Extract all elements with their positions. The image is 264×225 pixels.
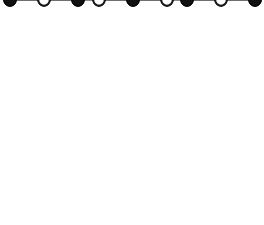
lattice-atom-filled xyxy=(4,0,16,6)
lattice-atoms-group xyxy=(4,0,261,6)
lattice-atom-filled xyxy=(72,0,84,6)
lattice-atom-open xyxy=(161,0,172,6)
lattice-atom-open xyxy=(93,0,104,6)
lattice-atom-filled xyxy=(249,0,261,6)
crystal-lattice-figure xyxy=(0,0,264,225)
lattice-atom-filled xyxy=(181,0,193,6)
lattice-atom-filled xyxy=(127,0,139,6)
lattice-atom-open xyxy=(38,0,49,6)
lattice-atom-open xyxy=(215,0,226,6)
lattice-canvas xyxy=(0,0,264,225)
